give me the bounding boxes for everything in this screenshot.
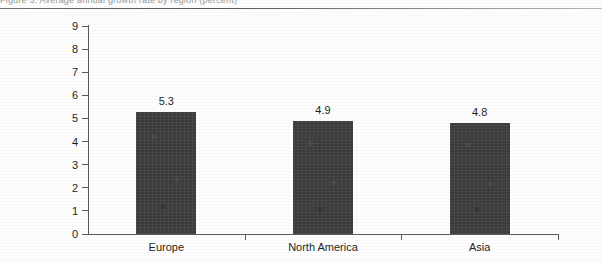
y-axis-tick xyxy=(82,72,88,73)
y-axis-tick-label: 7 xyxy=(56,67,78,78)
bar-chart: 0123456789 5.34.94.8 EuropeNorth America… xyxy=(0,0,602,262)
y-axis-tick-label: 9 xyxy=(56,21,78,32)
y-axis-tick xyxy=(82,95,88,96)
category-label: Europe xyxy=(88,241,245,253)
bar-value-label: 5.3 xyxy=(136,96,196,107)
y-axis-tick xyxy=(82,187,88,188)
y-axis-tick xyxy=(82,118,88,119)
y-axis-tick-label: 0 xyxy=(56,229,78,240)
y-axis-tick-label: 4 xyxy=(56,137,78,148)
bar-value-label: 4.8 xyxy=(450,107,510,118)
y-axis-tick-label: 3 xyxy=(56,160,78,171)
y-axis-tick xyxy=(82,234,88,235)
y-axis-tick xyxy=(82,141,88,142)
category-label: North America xyxy=(245,241,402,253)
y-axis-tick xyxy=(82,164,88,165)
y-axis-tick xyxy=(82,49,88,50)
y-axis-line xyxy=(88,25,89,235)
bar xyxy=(450,123,510,234)
x-axis-line xyxy=(88,234,558,235)
x-axis-tick xyxy=(558,234,559,240)
y-axis-tick-label: 8 xyxy=(56,44,78,55)
bar xyxy=(293,121,353,234)
y-axis-tick-label: 1 xyxy=(56,206,78,217)
category-label: Asia xyxy=(401,241,558,253)
x-axis-tick xyxy=(401,234,402,240)
x-axis-tick xyxy=(245,234,246,240)
scanned-page: Figure 3. Average annual growth rate by … xyxy=(0,0,602,262)
bar-value-label: 4.9 xyxy=(293,105,353,116)
bar xyxy=(136,112,196,234)
y-axis-tick-label: 5 xyxy=(56,113,78,124)
y-axis-tick xyxy=(82,26,88,27)
y-axis-tick xyxy=(82,210,88,211)
y-axis-tick-label: 2 xyxy=(56,183,78,194)
y-axis-tick-label: 6 xyxy=(56,90,78,101)
